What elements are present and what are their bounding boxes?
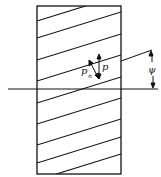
- normal-pitch-label: p: [81, 65, 88, 76]
- normal-pitch-subscript: n: [88, 72, 92, 79]
- helical-gear-diagram: p p n ψ: [0, 0, 161, 177]
- helix-angle-label: ψ: [148, 64, 156, 75]
- axial-pitch-label: p: [102, 61, 109, 72]
- helix-extension-line: [121, 50, 152, 61]
